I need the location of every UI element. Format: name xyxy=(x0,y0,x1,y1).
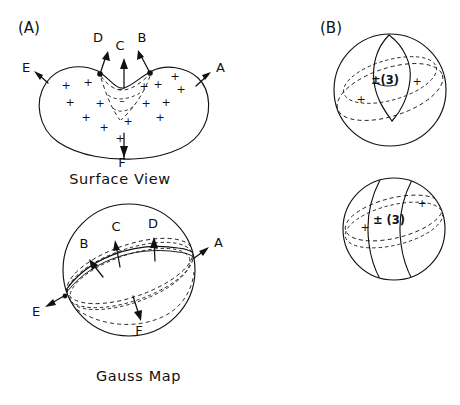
positive-curvature-mark: + xyxy=(161,96,170,109)
positive-curvature-mark: + xyxy=(176,83,185,96)
positive-curvature-mark: + xyxy=(81,111,90,124)
positive-curvature-mark: + xyxy=(141,97,150,110)
positive-region-mark: + xyxy=(356,93,365,106)
positive-curvature-mark: + xyxy=(170,70,179,83)
surface-vector-b-label: B xyxy=(138,30,147,45)
gauss-vector-d-label: D xyxy=(148,216,158,231)
positive-curvature-mark: + xyxy=(139,80,148,93)
gauss-map-caption: Gauss Map xyxy=(96,368,181,384)
gauss-vector-a xyxy=(193,247,209,259)
gauss-vector-e xyxy=(45,296,64,307)
panel-b-label: (B) xyxy=(320,19,342,37)
positive-curvature-mark: + xyxy=(99,121,108,134)
positive-curvature-mark: + xyxy=(61,79,70,92)
positive-curvature-mark: + xyxy=(123,115,132,128)
positive-curvature-mark: + xyxy=(153,78,162,91)
sphere-bottom-region-label: ± (3) xyxy=(373,213,405,227)
surface-vector-f-label: F xyxy=(118,155,125,170)
gauss-band-front-lower xyxy=(64,251,196,296)
surface-vector-b xyxy=(137,50,150,73)
sphere-bottom-outline xyxy=(343,178,445,280)
panel-a-label: (A) xyxy=(18,19,40,37)
sphere-top-outline xyxy=(334,34,446,146)
positive-curvature-mark: + xyxy=(65,96,74,109)
positive-curvature-mark: + xyxy=(95,97,104,110)
figure-root: (A) A B xyxy=(0,0,460,405)
surface-view-caption: Surface View xyxy=(69,171,170,187)
gauss-vector-a-label: A xyxy=(214,235,223,250)
sphere-top-diagram: ±(3) ++ xyxy=(330,34,449,146)
sphere-top-region-label: ±(3) xyxy=(371,73,399,87)
gauss-vector-f-label: F xyxy=(135,323,142,338)
gauss-map-diagram: A B C D E xyxy=(32,204,223,384)
positive-curvature-mark: + xyxy=(83,76,92,89)
sphere-bottom-lune-left xyxy=(368,180,381,281)
gauss-sphere-outline xyxy=(63,204,195,336)
surface-vector-e xyxy=(34,71,48,83)
sphere-bottom-diagram: ± (3) ++ xyxy=(341,178,448,281)
surface-vector-d xyxy=(100,51,110,74)
positive-region-mark: + xyxy=(417,197,426,210)
gauss-vector-b-label: B xyxy=(80,236,89,251)
surface-vector-d-label: D xyxy=(93,30,103,45)
positive-curvature-mark: + xyxy=(155,111,164,124)
gauss-vector-c-label: C xyxy=(111,219,120,234)
positive-region-mark: + xyxy=(412,75,421,88)
negative-curvature-mark: – xyxy=(119,94,125,107)
positive-curvature-mark: + xyxy=(115,132,124,145)
surface-vector-e-label: E xyxy=(22,60,30,75)
surface-vector-a-label: A xyxy=(216,60,225,75)
positive-region-mark: + xyxy=(360,221,369,234)
surface-view-diagram: A B C D E xyxy=(22,30,225,187)
figure-svg: (A) A B xyxy=(0,0,460,405)
sphere-top-equator-dashed xyxy=(330,52,449,132)
surface-vector-c-label: C xyxy=(115,38,124,53)
gauss-band-lower-sweep xyxy=(66,272,194,324)
gauss-vector-e-label: E xyxy=(32,304,40,319)
